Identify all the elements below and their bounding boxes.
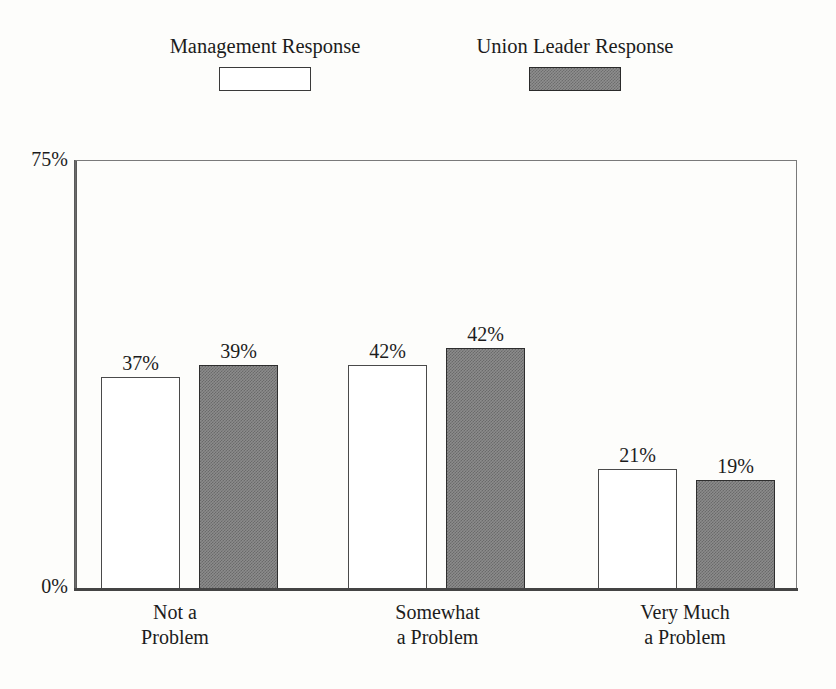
x-axis-line: [74, 588, 798, 591]
bar-value-label: 42%: [336, 340, 439, 362]
x-axis-category-label-line: Not a: [80, 600, 270, 625]
x-axis-category-label-line: a Problem: [585, 625, 785, 650]
y-axis-tick-label-top: 75%: [0, 148, 68, 171]
x-axis-category-label-line: Very Much: [585, 600, 785, 625]
plot-area: 37%42%21%39%42%19%: [75, 160, 797, 590]
legend-label-union-leader-response: Union Leader Response: [430, 34, 720, 58]
legend-entry-union-leader-response: Union Leader Response: [430, 34, 720, 91]
legend-swatch-management-response: [219, 67, 311, 91]
x-axis-category-label-2: Very Mucha Problem: [585, 600, 785, 650]
bar-value-label: 19%: [684, 455, 787, 477]
x-axis-category-label-0: Not aProblem: [80, 600, 270, 650]
legend-swatch-union-leader-response: [529, 67, 621, 91]
x-axis-category-label-line: Problem: [80, 625, 270, 650]
bar-value-label: 42%: [434, 323, 537, 345]
bar-value-label: 39%: [187, 340, 290, 362]
x-axis-category-label-1: Somewhata Problem: [340, 600, 535, 650]
chart-legend: Management Response Union Leader Respons…: [0, 34, 836, 114]
bar: [101, 377, 180, 589]
bar: [348, 365, 427, 589]
bar: [446, 348, 525, 589]
bar: [598, 469, 677, 589]
x-axis-category-label-line: a Problem: [340, 625, 535, 650]
y-axis-tick-label-bottom: 0%: [0, 575, 68, 598]
bar: [199, 365, 278, 589]
bar-value-label: 37%: [89, 352, 192, 374]
legend-entry-management-response: Management Response: [140, 34, 390, 91]
x-axis-category-label-line: Somewhat: [340, 600, 535, 625]
bar-value-label: 21%: [586, 444, 689, 466]
bar: [696, 480, 775, 589]
legend-label-management-response: Management Response: [140, 34, 390, 58]
